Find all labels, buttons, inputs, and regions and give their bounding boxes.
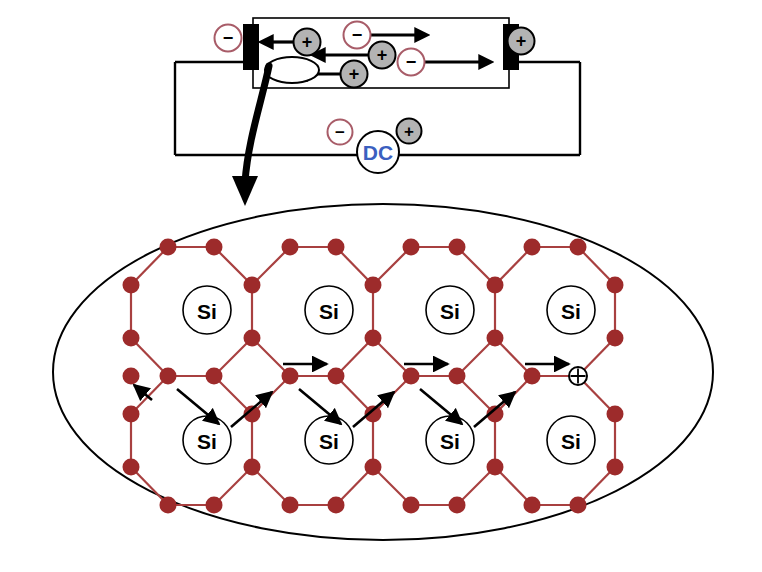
carrier-electron-1: − [344,22,371,49]
dc-positive-label: + [404,122,414,141]
dc-positive-terminal: + [397,119,422,144]
si-label: Si [440,300,460,323]
callout-pointer-arrowhead [232,176,258,206]
si-atom-top-3: Si [426,286,474,334]
highlighted-hole-ellipse [265,57,319,83]
circuit-group: + − + − + − + [175,18,580,173]
carrier-electron-2: − [398,49,425,76]
si-label: Si [319,300,339,323]
si-label: Si [561,300,581,323]
carrier-electron-1-label: − [352,25,363,45]
si-atom-top-4: Si [547,286,595,334]
electrode-left [243,24,259,70]
electrode-polarity-left: − [215,25,242,52]
carrier-hole-3-label: + [349,64,360,84]
si-label: Si [561,430,581,453]
si-atom-bottom-2: Si [305,416,353,464]
dc-negative-terminal: − [328,120,353,145]
electrode-polarity-right: + [508,28,535,55]
si-label: Si [319,430,339,453]
carrier-hole-2-label: + [377,45,388,65]
electrode-left-label: − [223,28,234,48]
hole-marker [569,367,587,385]
si-atom-top-1: Si [183,286,231,334]
semiconductor-conduction-diagram: + − + − + − + [0,0,762,572]
dc-source-label: DC [363,141,393,164]
si-label: Si [197,430,217,453]
dc-source: DC [357,131,399,173]
si-atom-top-2: Si [305,286,353,334]
carrier-hole-1-label: + [302,32,313,52]
carrier-hole-3: + [341,61,368,88]
figure-root: + − + − + − + [0,0,762,572]
si-label: Si [440,430,460,453]
si-label: Si [197,300,217,323]
carrier-hole-1: + [294,29,321,56]
si-atom-bottom-3: Si [426,416,474,464]
lattice-callout-group: Si Si Si Si Si Si Si Si [53,204,713,540]
carrier-electron-2-label: − [406,52,417,72]
carrier-hole-2: + [369,42,396,69]
dc-negative-label: − [335,123,345,142]
si-atom-bottom-1: Si [183,416,231,464]
electrode-right-label: + [516,31,527,51]
si-atom-bottom-4: Si [547,416,595,464]
